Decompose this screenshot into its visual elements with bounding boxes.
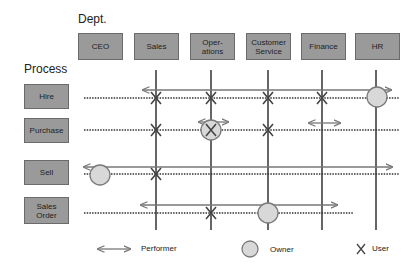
owner-hire-hr [367,87,387,107]
legend-user-label: User [372,244,389,253]
user-marks [151,92,327,219]
owner-sell-ceo [90,165,110,185]
performer-arrows [84,90,392,205]
matrix-diagram [0,0,419,273]
legend-owner-label: Owner [270,245,294,254]
process-lines [84,98,399,213]
owner-salesorder-cs [258,203,278,223]
legend-performer-label: Performer [141,244,177,253]
legend-owner-icon [242,241,258,257]
legend-user-icon [357,244,365,254]
owner-circles [90,87,387,223]
